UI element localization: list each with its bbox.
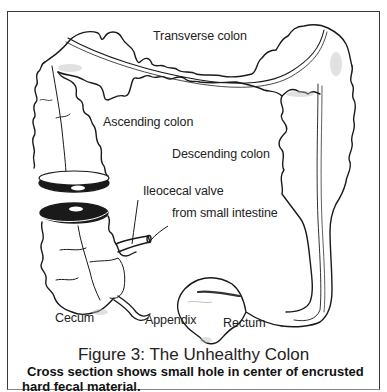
label-rectum: Rectum xyxy=(223,316,265,330)
label-appendix: Appendix xyxy=(145,313,196,327)
figure-title: Figure 3: The Unhealthy Colon xyxy=(0,346,387,364)
small-intestine-leader-line xyxy=(151,226,168,240)
label-ascending-colon: Ascending colon xyxy=(103,115,193,129)
label-from-small-intestine: from small intestine xyxy=(172,206,278,220)
descending-colon-shape xyxy=(282,66,355,327)
figure-caption: Cross section shows small hole in center… xyxy=(22,364,377,392)
cecum-shape xyxy=(41,222,114,314)
caption-line-2: hard fecal material. xyxy=(22,379,377,392)
label-transverse-colon: Transverse colon xyxy=(153,29,247,43)
rectum-shape xyxy=(178,278,282,344)
label-ileocecal-valve: Ileocecal valve xyxy=(143,184,224,198)
label-descending-colon: Descending colon xyxy=(172,147,270,161)
label-cecum: Cecum xyxy=(55,311,94,325)
caption-line-1: Cross section shows small hole in center… xyxy=(22,364,377,379)
ascending-colon-shape xyxy=(33,62,45,168)
